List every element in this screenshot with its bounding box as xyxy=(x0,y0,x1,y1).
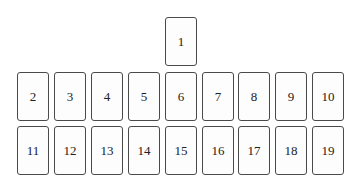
card-8: 8 xyxy=(238,72,270,121)
card-1: 1 xyxy=(165,17,197,66)
card-label: 7 xyxy=(215,89,222,105)
card-label: 13 xyxy=(101,143,114,159)
card-label: 14 xyxy=(138,143,151,159)
card-2: 2 xyxy=(17,72,49,121)
card-label: 11 xyxy=(27,143,40,159)
card-3: 3 xyxy=(54,72,86,121)
card-label: 2 xyxy=(30,89,37,105)
card-label: 17 xyxy=(248,143,261,159)
card-10: 10 xyxy=(312,72,344,121)
card-4: 4 xyxy=(91,72,123,121)
card-label: 6 xyxy=(178,89,185,105)
card-16: 16 xyxy=(202,126,234,175)
card-label: 19 xyxy=(322,143,335,159)
card-15: 15 xyxy=(165,126,197,175)
card-12: 12 xyxy=(54,126,86,175)
card-label: 10 xyxy=(322,89,335,105)
card-label: 12 xyxy=(64,143,77,159)
card-label: 15 xyxy=(175,143,188,159)
card-label: 8 xyxy=(251,89,258,105)
card-label: 3 xyxy=(67,89,74,105)
card-label: 5 xyxy=(141,89,148,105)
card-14: 14 xyxy=(128,126,160,175)
card-7: 7 xyxy=(202,72,234,121)
card-label: 1 xyxy=(178,34,185,50)
card-19: 19 xyxy=(312,126,344,175)
card-6: 6 xyxy=(165,72,197,121)
card-18: 18 xyxy=(275,126,307,175)
card-13: 13 xyxy=(91,126,123,175)
card-label: 9 xyxy=(288,89,295,105)
card-label: 4 xyxy=(104,89,111,105)
card-11: 11 xyxy=(17,126,49,175)
card-5: 5 xyxy=(128,72,160,121)
card-label: 16 xyxy=(212,143,225,159)
card-9: 9 xyxy=(275,72,307,121)
card-label: 18 xyxy=(285,143,298,159)
card-17: 17 xyxy=(238,126,270,175)
